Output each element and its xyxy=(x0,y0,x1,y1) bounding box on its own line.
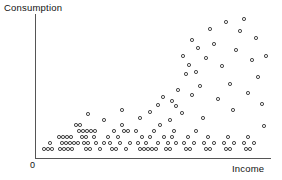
data-point xyxy=(186,135,190,139)
data-point xyxy=(126,129,130,133)
data-point xyxy=(208,27,212,31)
data-point xyxy=(222,141,226,145)
data-point xyxy=(194,70,198,74)
data-point xyxy=(208,147,212,151)
data-point xyxy=(192,141,196,145)
data-point xyxy=(161,95,165,99)
data-point xyxy=(260,102,264,106)
data-point xyxy=(172,129,176,133)
data-point xyxy=(50,147,54,151)
data-point xyxy=(86,112,90,116)
data-point xyxy=(86,141,90,145)
data-point xyxy=(148,135,152,139)
data-point xyxy=(262,124,266,128)
data-point xyxy=(202,141,206,145)
data-point xyxy=(184,72,188,76)
data-point xyxy=(134,129,138,133)
data-point xyxy=(156,141,160,145)
data-point xyxy=(256,75,260,79)
data-point xyxy=(181,54,185,58)
data-point xyxy=(102,118,106,122)
data-point xyxy=(112,129,116,133)
data-point xyxy=(246,135,250,139)
data-point xyxy=(166,141,170,145)
data-point xyxy=(69,135,73,139)
data-point xyxy=(88,147,92,151)
data-point xyxy=(114,147,118,151)
data-point xyxy=(206,135,210,139)
data-point xyxy=(140,135,144,139)
data-point xyxy=(250,58,254,62)
data-point xyxy=(94,141,98,145)
data-point xyxy=(198,84,202,88)
data-point xyxy=(156,103,160,107)
data-point xyxy=(136,141,140,145)
data-point xyxy=(212,141,216,145)
data-point xyxy=(84,135,88,139)
data-point xyxy=(224,20,228,24)
data-point xyxy=(70,147,74,151)
data-point xyxy=(76,141,80,145)
data-point xyxy=(158,123,162,127)
data-point xyxy=(120,123,124,127)
data-point xyxy=(108,141,112,145)
data-point xyxy=(168,118,172,122)
data-point xyxy=(234,48,238,52)
data-point xyxy=(204,56,208,60)
data-point xyxy=(228,82,232,86)
data-point xyxy=(254,36,258,40)
data-point xyxy=(174,141,178,145)
data-point xyxy=(201,116,205,120)
data-points-layer xyxy=(0,0,282,180)
data-point xyxy=(216,97,220,101)
data-point xyxy=(78,123,82,127)
data-point xyxy=(128,141,132,145)
data-point xyxy=(138,116,142,120)
data-point xyxy=(170,99,174,103)
data-point xyxy=(93,129,97,133)
data-point xyxy=(92,135,96,139)
data-point xyxy=(174,104,178,108)
data-point xyxy=(154,147,158,151)
data-point xyxy=(124,147,128,151)
data-point xyxy=(232,141,236,145)
data-point xyxy=(152,129,156,133)
data-point xyxy=(118,141,122,145)
data-point xyxy=(162,135,166,139)
data-point xyxy=(194,129,198,133)
data-point xyxy=(228,147,232,151)
data-point xyxy=(168,147,172,151)
data-point xyxy=(180,111,184,115)
data-point xyxy=(102,141,106,145)
data-point xyxy=(176,88,180,92)
data-point xyxy=(246,91,250,95)
scatter-plot: Consumption Income 0 xyxy=(0,0,282,180)
data-point xyxy=(116,135,120,139)
data-point xyxy=(242,141,246,145)
data-point xyxy=(48,141,52,145)
data-point xyxy=(264,54,268,58)
data-point xyxy=(106,135,110,139)
data-point xyxy=(252,141,256,145)
data-point xyxy=(226,135,230,139)
data-point xyxy=(190,93,194,97)
data-point xyxy=(148,110,152,114)
data-point xyxy=(182,141,186,145)
data-point xyxy=(190,38,194,42)
data-point xyxy=(98,147,102,151)
data-point xyxy=(187,63,191,67)
data-point xyxy=(170,135,174,139)
data-point xyxy=(212,42,216,46)
data-point xyxy=(188,147,192,151)
data-point xyxy=(196,46,200,50)
data-point xyxy=(231,108,235,112)
data-point xyxy=(220,64,224,68)
data-point xyxy=(120,108,124,112)
data-point xyxy=(242,17,246,21)
data-point xyxy=(144,141,148,145)
data-point xyxy=(248,147,252,151)
data-point xyxy=(238,29,242,33)
